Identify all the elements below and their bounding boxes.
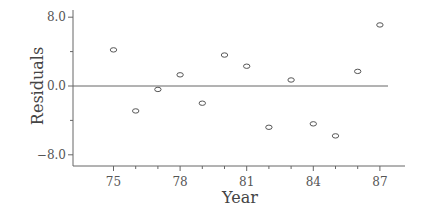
x-tick-label: 87 bbox=[372, 175, 387, 189]
y-axis-title: Residuals bbox=[28, 47, 47, 125]
data-point-marker bbox=[332, 134, 338, 138]
data-point-marker bbox=[266, 125, 272, 129]
y-tick-label: −8.0 bbox=[37, 148, 66, 162]
data-point-marker bbox=[199, 101, 205, 105]
data-point-marker bbox=[177, 73, 183, 77]
residual-scatter-chart: 8.00.0−8.07578818487 Year Residuals bbox=[0, 0, 425, 211]
data-point-marker bbox=[155, 87, 161, 91]
data-point-marker bbox=[110, 48, 116, 52]
data-point-marker bbox=[221, 53, 227, 57]
axes: 8.00.0−8.07578818487 bbox=[37, 10, 405, 189]
x-tick-label: 81 bbox=[239, 175, 254, 189]
x-tick-label: 78 bbox=[172, 175, 187, 189]
x-axis-title: Year bbox=[221, 188, 258, 207]
data-point-marker bbox=[288, 78, 294, 82]
data-point-marker bbox=[244, 64, 250, 68]
data-point-marker bbox=[133, 109, 139, 113]
data-points bbox=[110, 23, 383, 138]
y-tick-label: 8.0 bbox=[47, 10, 66, 24]
x-tick-label: 84 bbox=[306, 175, 322, 189]
y-tick-label: 0.0 bbox=[47, 79, 66, 93]
data-point-marker bbox=[377, 23, 383, 27]
x-tick-label: 75 bbox=[106, 175, 121, 189]
data-point-marker bbox=[355, 69, 361, 73]
data-point-marker bbox=[310, 122, 316, 126]
